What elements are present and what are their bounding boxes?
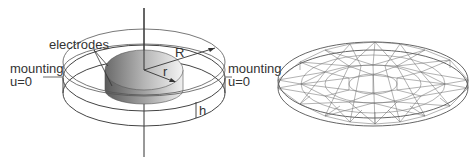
boundary-left-label: u=0 — [10, 74, 32, 89]
figure: electrodes mounting u=0 mounting u=0 R r… — [0, 0, 470, 167]
height-label: h — [199, 103, 206, 118]
disc-geometry-diagram: electrodes mounting u=0 mounting u=0 R r… — [10, 8, 281, 157]
inner-radius-label: r — [163, 64, 168, 79]
electrodes-label: electrodes — [49, 37, 109, 52]
boundary-right-label: u=0 — [228, 74, 250, 89]
outer-radius-label: R — [175, 45, 184, 60]
finite-element-mesh — [278, 42, 468, 126]
